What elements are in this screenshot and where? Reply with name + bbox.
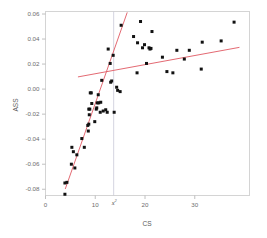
data-point <box>201 41 204 44</box>
data-point <box>97 93 100 96</box>
data-point <box>200 68 203 71</box>
data-point <box>110 79 113 82</box>
x-tick-label: 20 <box>142 201 149 208</box>
y-tick-label: -0.08 <box>25 185 40 192</box>
data-point <box>72 150 75 153</box>
data-point <box>87 130 90 133</box>
data-point <box>70 146 73 149</box>
threshold-label-superscript: 2 <box>114 198 117 203</box>
data-point <box>90 102 93 105</box>
x-tick-label: 30 <box>191 201 198 208</box>
x-axis-ticks: 0102030 <box>44 196 199 208</box>
y-tick-label: -0.06 <box>25 160 40 167</box>
data-point <box>109 62 112 65</box>
data-point <box>106 111 109 114</box>
data-point <box>145 62 148 65</box>
y-axis-title: ASS <box>12 98 19 112</box>
data-point <box>132 35 135 38</box>
chart-figure: 0.060.040.020.00-0.02-0.04-0.06-0.08 010… <box>0 0 267 238</box>
data-point <box>165 70 168 73</box>
data-point <box>143 43 146 46</box>
scatter-plot: 0.060.040.020.00-0.02-0.04-0.06-0.08 010… <box>0 0 267 238</box>
data-point <box>80 137 83 140</box>
data-point <box>136 41 139 44</box>
data-point <box>161 56 164 59</box>
data-point <box>141 46 144 49</box>
x-tick-label: 0 <box>44 201 48 208</box>
data-point <box>95 106 98 109</box>
data-point <box>99 101 102 104</box>
data-point <box>175 49 178 52</box>
data-point <box>183 58 186 61</box>
data-point <box>65 181 68 184</box>
y-tick-label: -0.02 <box>25 110 40 117</box>
data-point <box>83 146 86 149</box>
threshold-label: x2 <box>111 198 118 206</box>
data-point <box>73 166 76 169</box>
data-point <box>220 39 223 42</box>
x-axis-title: CS <box>142 220 152 227</box>
data-point <box>87 123 90 126</box>
y-tick-label: 0.04 <box>27 35 40 42</box>
data-point <box>150 30 153 33</box>
y-tick-label: -0.04 <box>25 135 40 142</box>
x-tick-label: 10 <box>92 201 99 208</box>
data-point <box>233 21 236 24</box>
data-point <box>171 71 174 74</box>
data-point <box>119 90 122 93</box>
y-tick-label: 0.06 <box>27 10 40 17</box>
y-axis-ticks: 0.060.040.020.00-0.02-0.04-0.06-0.08 <box>25 10 45 192</box>
y-tick-label: 0.02 <box>27 60 40 67</box>
data-point <box>149 47 152 50</box>
data-point <box>139 20 142 23</box>
data-point <box>188 49 191 52</box>
data-point <box>70 163 73 166</box>
data-point <box>100 79 103 82</box>
data-point <box>107 48 110 51</box>
data-point <box>99 111 102 114</box>
data-point <box>63 193 66 196</box>
data-point <box>120 24 123 27</box>
data-point <box>88 113 91 116</box>
data-point <box>88 108 91 111</box>
data-point <box>112 54 115 57</box>
y-tick-label: 0.00 <box>27 85 40 92</box>
data-point <box>113 111 116 114</box>
data-point <box>93 120 96 123</box>
data-point <box>115 86 118 89</box>
data-point <box>90 91 93 94</box>
data-point <box>75 153 78 156</box>
data-point <box>136 71 139 74</box>
